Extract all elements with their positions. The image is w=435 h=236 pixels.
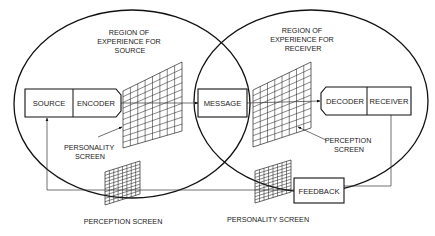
message-block: MESSAGE [198, 89, 247, 117]
message-node: MESSAGE [204, 99, 242, 108]
communication-diagram: REGION OF EXPERIENCE FOR SOURCE REGION O… [0, 0, 435, 236]
feedback-personality-screen-label: PERSONALITY SCREEN [227, 215, 309, 224]
receiver-perception-screen [253, 62, 311, 147]
personality-screen-pointer [98, 127, 122, 137]
source-encoder-block: SOURCE ENCODER [25, 89, 121, 117]
source-region-title: REGION OF EXPERIENCE FOR SOURCE [97, 28, 163, 55]
decoder-receiver-block: DECODER RECEIVER [321, 87, 411, 115]
source-personality-screen [123, 62, 182, 148]
source-personality-screen-label: PERSONALITY SCREEN [64, 143, 116, 161]
receiver-region-title: REGION OF EXPERIENCE FOR RECEIVER [270, 26, 336, 53]
feedback-personality-screen [255, 160, 291, 203]
source-node: SOURCE [33, 99, 66, 108]
perception-screen-pointer [298, 127, 326, 140]
feedback-perception-screen-label: PERCEPTION SCREEN [84, 217, 163, 226]
feedback-block: FEEDBACK [294, 178, 344, 203]
encoder-node: ENCODER [77, 99, 115, 108]
message-to-decoder-arrow [247, 101, 320, 103]
receiver-perception-screen-label: PERCEPTION SCREEN [325, 136, 374, 154]
receiver-node: RECEIVER [370, 97, 409, 106]
decoder-node: DECODER [326, 97, 364, 106]
feedback-node: FEEDBACK [299, 187, 340, 196]
